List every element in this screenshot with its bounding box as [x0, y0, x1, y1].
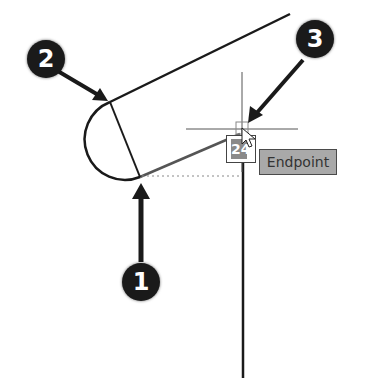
cursor-arrow-icon: [241, 127, 257, 149]
callout-2: 2: [27, 40, 65, 78]
slot-bottom-line: [140, 134, 240, 177]
arrow-1: [132, 183, 150, 262]
arrow-3: [248, 60, 303, 123]
endpoint-snap-tooltip: Endpoint: [259, 149, 337, 175]
callout-3: 3: [296, 20, 334, 58]
callout-1: 1: [122, 263, 160, 301]
arc-cap: [85, 102, 140, 180]
arc-chord-line: [110, 102, 140, 177]
slot-top-line: [110, 14, 290, 102]
arrow-2: [56, 70, 108, 101]
